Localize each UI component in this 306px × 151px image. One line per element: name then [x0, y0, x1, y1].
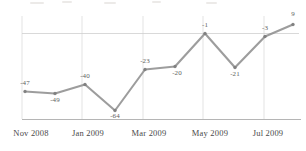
point-label: -64	[110, 112, 120, 120]
line-chart: -47 -49 -40 -64 -23 -20 -1 -21 -3 9 Nov …	[0, 0, 306, 151]
x-tick-label: May 2009	[192, 128, 228, 138]
point-label: 9	[291, 10, 295, 18]
point-label: -20	[172, 69, 182, 77]
point-label: -47	[20, 79, 30, 87]
data-series-line	[25, 25, 293, 111]
x-tick-label: Mar 2009	[132, 128, 167, 138]
point-label: -1	[202, 21, 208, 29]
x-tick-label: Nov 2008	[13, 128, 48, 138]
point-label: -40	[80, 72, 90, 80]
point-label: -23	[140, 57, 150, 65]
x-tick-label: Jul 2009	[253, 128, 284, 138]
point-label: -49	[50, 96, 60, 104]
point-label: -3	[262, 24, 268, 32]
x-tick-label: Jan 2009	[72, 128, 104, 138]
point-label: -21	[230, 70, 240, 78]
